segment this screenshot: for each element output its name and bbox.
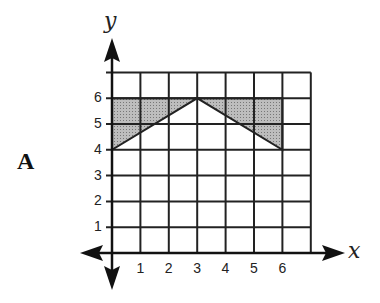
y-tick-label: 6 — [94, 89, 102, 105]
y-tick-label: 1 — [94, 218, 102, 234]
x-tick-label: 6 — [278, 260, 286, 276]
x-tick-label: 3 — [193, 260, 201, 276]
coordinate-diagram: y x A 123456123456 — [0, 0, 380, 303]
y-axis-label: y — [104, 8, 116, 33]
x-tick-label: 4 — [222, 260, 230, 276]
x-tick-label: 5 — [250, 260, 258, 276]
grid-svg — [0, 0, 380, 303]
y-tick-label: 3 — [94, 167, 102, 183]
y-tick-label: 5 — [94, 115, 102, 131]
x-tick-label: 1 — [136, 260, 144, 276]
problem-label: A — [17, 148, 34, 175]
y-tick-label: 2 — [94, 192, 102, 208]
axes — [90, 50, 338, 282]
x-axis-label: x — [348, 238, 360, 263]
y-tick-label: 4 — [94, 141, 102, 157]
x-tick-label: 2 — [165, 260, 173, 276]
